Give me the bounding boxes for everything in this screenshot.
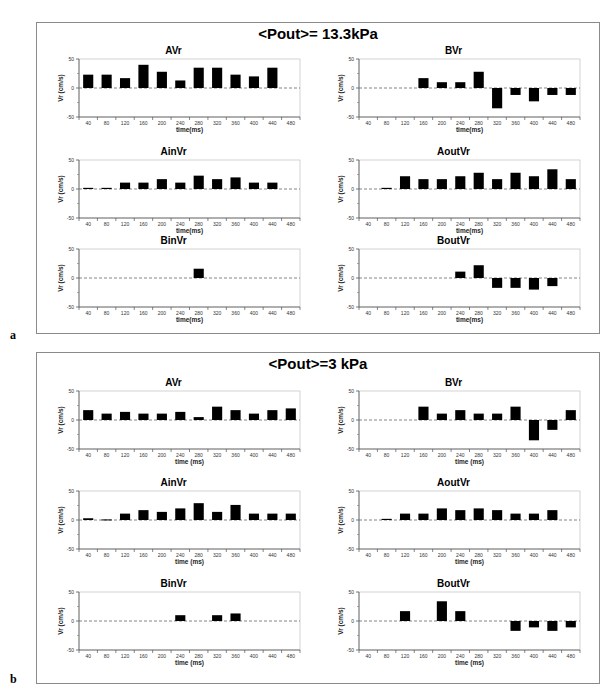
bar <box>418 514 428 520</box>
bar <box>529 514 539 520</box>
chart-b-aoutvr: AoutVr-50050Vr (cm/s)4080120160200240280… <box>321 477 586 572</box>
svg-text:360: 360 <box>231 310 240 316</box>
panel-a: <Pout>= 13.3kPa AVr-50050Vr (cm/s)408012… <box>36 22 600 334</box>
bar <box>547 420 557 430</box>
svg-text:time (ms): time (ms) <box>175 558 204 566</box>
svg-text:400: 400 <box>530 120 539 126</box>
svg-text:0: 0 <box>351 85 354 91</box>
panel-b-letter: b <box>10 672 17 687</box>
bar <box>212 68 222 88</box>
svg-text:time(ms): time(ms) <box>456 227 483 235</box>
svg-text:160: 160 <box>419 310 428 316</box>
svg-text:Vr (cm/s): Vr (cm/s) <box>57 607 65 634</box>
bar <box>175 615 185 621</box>
svg-text:Vr (cm/s): Vr (cm/s) <box>57 506 65 533</box>
svg-text:40: 40 <box>85 552 91 558</box>
bar <box>194 417 204 420</box>
svg-text:440: 440 <box>548 310 557 316</box>
bar-chart-plot: -50050Vr (cm/s)4080120160200240280320360… <box>321 477 586 572</box>
svg-text:160: 160 <box>419 221 428 227</box>
bar <box>230 613 240 621</box>
bar-chart-plot: -50050Vr (cm/s)4080120160200240280320360… <box>41 146 306 241</box>
svg-text:0: 0 <box>351 275 354 281</box>
svg-text:-50: -50 <box>67 215 74 221</box>
svg-text:Vr (cm/s): Vr (cm/s) <box>337 607 345 634</box>
svg-text:400: 400 <box>530 452 539 458</box>
svg-text:80: 80 <box>384 653 390 659</box>
bar-chart-plot: -50050Vr (cm/s)4080120160200240280320360… <box>41 235 306 330</box>
svg-text:40: 40 <box>85 310 91 316</box>
bar <box>474 265 484 278</box>
svg-text:440: 440 <box>268 653 277 659</box>
bar <box>102 519 112 520</box>
svg-text:0: 0 <box>351 618 354 624</box>
svg-text:120: 120 <box>121 552 130 558</box>
svg-text:480: 480 <box>567 310 576 316</box>
bar <box>529 621 539 627</box>
bar-chart-plot: -50050Vr (cm/s)4080120160200240280320360… <box>321 45 586 140</box>
svg-text:400: 400 <box>530 653 539 659</box>
svg-text:80: 80 <box>104 452 110 458</box>
svg-text:50: 50 <box>68 246 74 252</box>
bar <box>437 601 447 621</box>
bar <box>510 173 520 189</box>
svg-text:360: 360 <box>231 221 240 227</box>
bar <box>83 518 93 520</box>
svg-text:360: 360 <box>511 221 520 227</box>
svg-text:80: 80 <box>384 221 390 227</box>
bar <box>120 183 130 189</box>
svg-text:40: 40 <box>85 120 91 126</box>
bar <box>492 510 502 520</box>
chart-a-binvr: BinVr-50050Vr (cm/s)40801201602002402803… <box>41 235 306 330</box>
svg-text:40: 40 <box>365 653 371 659</box>
svg-text:80: 80 <box>104 120 110 126</box>
svg-text:480: 480 <box>567 552 576 558</box>
svg-text:320: 320 <box>213 452 222 458</box>
bar <box>529 278 539 290</box>
bar <box>102 188 112 189</box>
svg-text:320: 320 <box>213 552 222 558</box>
bar <box>194 68 204 88</box>
bar <box>418 179 428 189</box>
svg-text:480: 480 <box>567 120 576 126</box>
bar <box>157 179 167 189</box>
svg-text:320: 320 <box>213 310 222 316</box>
svg-text:320: 320 <box>213 221 222 227</box>
bar <box>249 414 259 420</box>
svg-text:0: 0 <box>71 85 74 91</box>
bar <box>267 183 277 189</box>
svg-text:80: 80 <box>384 452 390 458</box>
svg-text:440: 440 <box>268 552 277 558</box>
bar <box>157 72 167 88</box>
svg-text:time (ms): time (ms) <box>175 458 204 466</box>
bar <box>212 407 222 420</box>
bar <box>120 78 130 88</box>
bar <box>437 179 447 189</box>
bar <box>83 75 93 88</box>
bar <box>249 514 259 520</box>
bar <box>547 88 557 95</box>
svg-text:160: 160 <box>139 653 148 659</box>
svg-text:400: 400 <box>250 653 259 659</box>
svg-text:50: 50 <box>348 488 354 494</box>
bar <box>547 278 557 286</box>
bar <box>418 78 428 88</box>
svg-text:80: 80 <box>104 310 110 316</box>
svg-text:480: 480 <box>287 221 296 227</box>
svg-text:120: 120 <box>121 120 130 126</box>
svg-text:-50: -50 <box>67 114 74 120</box>
svg-text:480: 480 <box>287 552 296 558</box>
svg-text:0: 0 <box>71 275 74 281</box>
bar <box>400 611 410 621</box>
bar-chart-plot: -50050Vr (cm/s)4080120160200240280320360… <box>41 477 306 572</box>
svg-text:360: 360 <box>231 653 240 659</box>
svg-text:0: 0 <box>71 186 74 192</box>
svg-text:-50: -50 <box>347 546 354 552</box>
bar <box>138 414 148 420</box>
svg-text:time(ms): time(ms) <box>176 227 203 235</box>
bar <box>529 176 539 189</box>
svg-text:Vr (cm/s): Vr (cm/s) <box>57 264 65 291</box>
chart-b-binvr: BinVr-50050Vr (cm/s)40801201602002402803… <box>41 578 306 673</box>
bar-chart-plot: -50050Vr (cm/s)4080120160200240280320360… <box>321 578 586 673</box>
svg-text:120: 120 <box>121 653 130 659</box>
